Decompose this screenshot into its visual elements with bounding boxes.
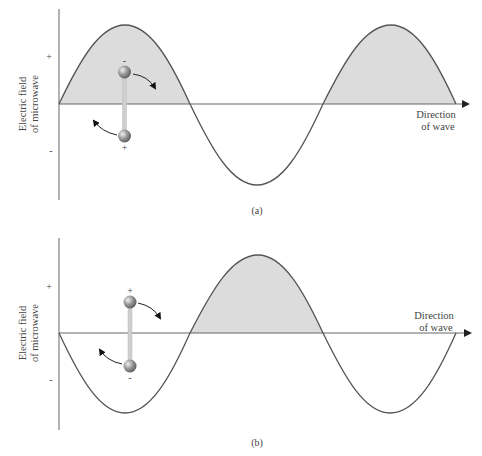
rotation-arrow-left-icon [94,121,117,135]
rotation-arrow-right-icon [138,303,160,318]
y-axis-label-line1: Electric field [17,76,28,131]
y-axis-label-line1: Electric field [17,305,28,360]
direction-label-line1-a: Direction [416,109,456,120]
rotation-arrow-left-icon [100,350,122,364]
y-axis-label-b: Electric field of microwave [17,304,40,362]
bottom-charge-a: + [122,142,128,153]
atom-top-icon [118,66,131,79]
minus-tick-label-b: - [49,374,52,385]
plus-tick-label-b: + [46,281,52,292]
top-charge-b: + [127,285,133,296]
molecule-bond [123,72,127,136]
direction-label-line1-b: Direction [414,310,454,321]
atom-bottom-icon [124,360,137,373]
atom-top-icon [124,296,137,309]
caption-a: (a) [251,205,262,217]
microwave-diagram: Electric field of microwave + - Directio… [0,0,482,456]
panel-a: Electric field of microwave + - Directio… [17,9,468,217]
molecule-bond [128,302,132,366]
y-axis-label-a: Electric field of microwave [17,75,40,133]
bottom-charge-b: - [128,372,131,383]
y-axis-label-line2: of microwave [29,304,40,362]
dipole-molecule-b: + - [100,285,160,383]
minus-tick-label-a: - [49,145,52,156]
panel-b: Electric field of microwave + - Directio… [17,238,470,449]
atom-bottom-icon [118,130,131,143]
plus-tick-label-a: + [46,51,52,62]
top-charge-a: - [123,55,126,66]
direction-label-line2-b: of wave [419,322,453,333]
y-axis-label-line2: of microwave [29,75,40,133]
direction-label-line2-a: of wave [421,121,455,132]
caption-b: (b) [251,437,263,449]
